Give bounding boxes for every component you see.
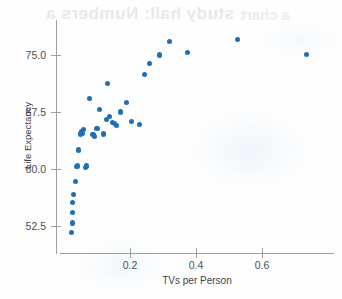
scatter-point [142,72,147,77]
scatter-point [94,126,99,131]
scatter-point [118,109,123,114]
x-tick-mark [262,248,263,258]
scatter-point [101,131,106,136]
x-tick-mark [130,248,131,258]
y-tick-label: 75.0 [4,50,46,61]
scatter-plot-figure: study hall: Numbers a a chart 52.560.067… [0,0,342,299]
x-tick-label: 0.2 [110,259,150,271]
scatter-point [75,163,80,168]
scatter-point [167,39,172,44]
scatter-point [73,179,78,184]
scatter-point [124,100,129,105]
y-axis-title: Life Expectancy [22,66,33,206]
x-tick-mark [196,248,197,258]
scatter-point [185,50,190,55]
x-tick-label: 0.6 [242,259,282,271]
scatter-point [84,163,89,168]
scatter-point [157,52,162,57]
scatter-point [92,134,97,139]
x-axis-title: TVs per Person [60,275,334,286]
y-tick-mark [51,226,61,227]
scatter-point [114,123,119,128]
plot-area: 52.560.067.575.0 0.20.40.6 Life Expectan… [0,0,342,299]
scatter-point [81,127,86,132]
scatter-point [235,37,240,42]
x-tick-label: 0.4 [176,259,216,271]
y-tick-label: 52.5 [4,221,46,232]
scatter-point [97,107,102,112]
y-tick-mark [51,169,61,170]
scatter-point [87,96,92,101]
scatter-point [147,61,152,66]
scatter-point [304,52,309,57]
scatter-point [137,122,142,127]
scatter-point [129,119,134,124]
scatter-point [76,147,81,152]
y-tick-mark [51,112,61,113]
scatter-point [71,192,76,197]
scatter-point [70,210,75,215]
scatter-point [107,114,112,119]
scatter-point [70,200,75,205]
scatter-point [70,220,75,225]
scatter-point [69,230,74,235]
scatter-point [105,81,110,86]
y-tick-mark [51,55,61,56]
